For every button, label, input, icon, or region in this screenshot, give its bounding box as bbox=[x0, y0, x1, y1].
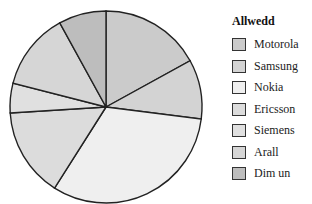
legend-item-ericsson: Ericsson bbox=[232, 99, 299, 121]
legend-swatch bbox=[232, 103, 246, 116]
legend-swatch bbox=[232, 60, 246, 73]
legend-label: Arall bbox=[254, 145, 279, 160]
legend-swatch bbox=[232, 167, 246, 180]
legend-swatch bbox=[232, 146, 246, 159]
legend-item-nokia: Nokia bbox=[232, 77, 299, 99]
legend-label: Samsung bbox=[254, 59, 298, 74]
legend-label: Siemens bbox=[254, 123, 295, 138]
legend-label: Ericsson bbox=[254, 102, 295, 117]
legend-item-dim-un: Dim un bbox=[232, 163, 299, 185]
legend-swatch bbox=[232, 81, 246, 94]
legend-swatch bbox=[232, 124, 246, 137]
legend-item-siemens: Siemens bbox=[232, 120, 299, 142]
pie-chart bbox=[0, 0, 220, 204]
legend-title: Allwedd bbox=[232, 14, 299, 29]
legend-label: Motorola bbox=[254, 37, 299, 52]
legend-item-samsung: Samsung bbox=[232, 56, 299, 78]
legend-label: Dim un bbox=[254, 166, 290, 181]
legend-item-motorola: Motorola bbox=[232, 34, 299, 56]
legend-item-arall: Arall bbox=[232, 142, 299, 164]
legend-swatch bbox=[232, 38, 246, 51]
legend: Allwedd Motorola Samsung Nokia Ericsson … bbox=[232, 14, 299, 185]
legend-label: Nokia bbox=[254, 80, 283, 95]
